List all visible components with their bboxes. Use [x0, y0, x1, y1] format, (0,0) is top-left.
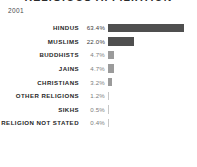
bar-row-label: OTHER RELIGIONS — [0, 92, 79, 99]
bar-row-value: 0.4% — [79, 119, 108, 126]
bar-row-value: 4.7% — [79, 65, 108, 72]
bar-row-label: CHRISTIANS — [0, 79, 79, 86]
bar-rows: HINDUS63.4%MUSLIMS22.0%BUDDHISTS4.7%JAIN… — [0, 21, 197, 130]
bar-row: MUSLIMS22.0% — [0, 35, 197, 49]
bar-row-value: 1.2% — [79, 92, 108, 99]
bar-row-value: 4.7% — [79, 51, 108, 58]
bar-track — [108, 103, 197, 117]
bar-track — [108, 116, 197, 130]
bar-row: OTHER RELIGIONS1.2% — [0, 89, 197, 103]
bar-row: JAINS4.7% — [0, 62, 197, 76]
bar — [108, 92, 109, 100]
bar-track — [108, 35, 197, 49]
bar-track — [108, 62, 197, 76]
bar — [108, 24, 184, 32]
bar-row-label: RELIGION NOT STATED — [0, 119, 79, 126]
bar — [108, 119, 109, 127]
bar-row-label: SIKHS — [0, 106, 79, 113]
bar-row: SIKHS0.5% — [0, 103, 197, 117]
religious-affiliation-chart: RELIGIOUS AFFILIATION 2001 HINDUS63.4%MU… — [0, 0, 197, 167]
bar-row-value: 3.2% — [79, 79, 108, 86]
bar-row-value: 22.0% — [79, 38, 108, 45]
bar-row-value: 0.5% — [79, 106, 108, 113]
bar-row: RELIGION NOT STATED0.4% — [0, 116, 197, 130]
chart-title: RELIGIOUS AFFILIATION — [0, 0, 197, 3]
bar-track — [108, 75, 197, 89]
bar-row-label: HINDUS — [0, 24, 79, 31]
year-label: 2001 — [8, 7, 24, 15]
bar-row: CHRISTIANS3.2% — [0, 75, 197, 89]
bar-row: BUDDHISTS4.7% — [0, 48, 197, 62]
bar-track — [108, 48, 197, 62]
bar — [108, 78, 112, 86]
bar — [108, 51, 114, 59]
bar-track — [108, 89, 197, 103]
bar — [108, 105, 109, 113]
bar-track — [108, 21, 197, 35]
bar-row-value: 63.4% — [79, 24, 108, 31]
bar-row-label: BUDDHISTS — [0, 51, 79, 58]
bar-row-label: MUSLIMS — [0, 38, 79, 45]
bar-row: HINDUS63.4% — [0, 21, 197, 35]
bar — [108, 64, 114, 72]
bar-row-label: JAINS — [0, 65, 79, 72]
bar — [108, 37, 134, 45]
